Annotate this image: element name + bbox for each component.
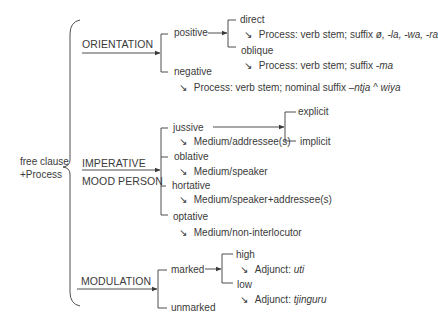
optative-label: optative — [173, 211, 208, 223]
high-realization: ↘ Adjunct: uti — [240, 264, 304, 276]
unmarked-label: unmarked — [171, 302, 215, 314]
direct-realization: ↘ Process: verb stem; suffix ø, -la, -wa… — [244, 29, 438, 41]
jussive-label: jussive — [173, 122, 204, 134]
realization-arrow-icon: ↘ — [240, 264, 248, 275]
hortative-label: hortative — [172, 180, 210, 192]
direct-label: direct — [240, 14, 264, 26]
oblique-label: oblique — [241, 45, 273, 57]
oblative-realization: ↘ Medium/speaker — [179, 166, 268, 178]
modulation-bracket — [158, 270, 167, 308]
realization-arrow-icon: ↘ — [244, 60, 252, 71]
positive-bracket — [228, 20, 236, 47]
imperative-label-line2: MOOD PERSON — [82, 175, 163, 187]
orientation-label: ORIENTATION — [82, 38, 153, 50]
high-label: high — [236, 249, 255, 261]
marked-bracket — [222, 254, 233, 283]
negative-realization: ↘ Process: verb stem; nominal suffix –nt… — [179, 82, 401, 94]
realization-arrow-icon: ↘ — [179, 194, 187, 205]
orientation-bracket — [161, 34, 168, 72]
realization-arrow-icon: ↘ — [179, 136, 187, 147]
realization-arrow-icon: ↘ — [244, 29, 252, 40]
negative-label: negative — [174, 66, 212, 78]
low-realization: ↘ Adjunct: tjinguru — [240, 294, 327, 306]
realization-arrow-icon: ↘ — [179, 227, 187, 238]
imperative-bracket — [161, 128, 168, 215]
oblique-realization: ↘ Process: verb stem; suffix -ma — [244, 60, 393, 72]
realization-arrow-icon: ↘ — [240, 294, 248, 305]
realization-arrow-icon: ↘ — [179, 82, 187, 93]
implicit-label: implicit — [300, 136, 331, 148]
realization-arrow-icon: ↘ — [179, 166, 187, 177]
low-label: low — [237, 279, 252, 291]
imperative-label-line1: IMPERATIVE — [82, 157, 146, 169]
jussive-realization: ↘ Medium/addressee(s) — [179, 136, 291, 148]
root-label-line2: +Process — [20, 169, 62, 181]
marked-label: marked — [171, 264, 204, 276]
system-network-diagram: free clause +Process ORIENTATION positiv… — [0, 0, 438, 324]
positive-label: positive — [174, 27, 208, 39]
explicit-label: explicit — [298, 106, 329, 118]
root-label-line1: free clause — [20, 156, 69, 168]
optative-realization: ↘ Medium/non-interlocutor — [179, 227, 302, 239]
hortative-realization: ↘ Medium/speaker+addressee(s) — [179, 194, 332, 206]
oblative-label: oblative — [174, 151, 208, 163]
modulation-label: MODULATION — [81, 275, 151, 287]
